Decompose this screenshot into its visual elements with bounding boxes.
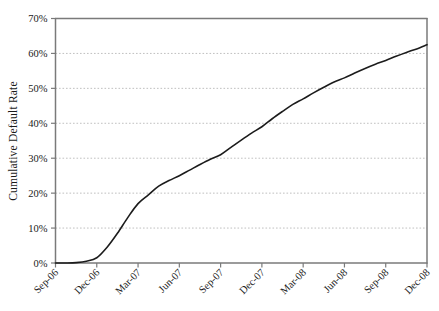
cumulative-default-rate-chart: 0%10%20%30%40%50%60%70% Sep-06Dec-06Mar-… — [0, 0, 439, 311]
y-tick-label: 10% — [28, 223, 48, 234]
y-tick-label: 60% — [28, 48, 48, 59]
y-tick-label: 30% — [28, 153, 48, 164]
y-axis-title: Cumulative Default Rate — [7, 81, 19, 201]
y-tick-label: 50% — [28, 83, 48, 94]
y-tick-label: 70% — [28, 13, 48, 24]
y-tick-label: 0% — [34, 258, 48, 269]
y-tick-label: 40% — [28, 118, 48, 129]
chart-svg: 0%10%20%30%40%50%60%70% Sep-06Dec-06Mar-… — [0, 0, 439, 311]
y-tick-label: 20% — [28, 188, 48, 199]
